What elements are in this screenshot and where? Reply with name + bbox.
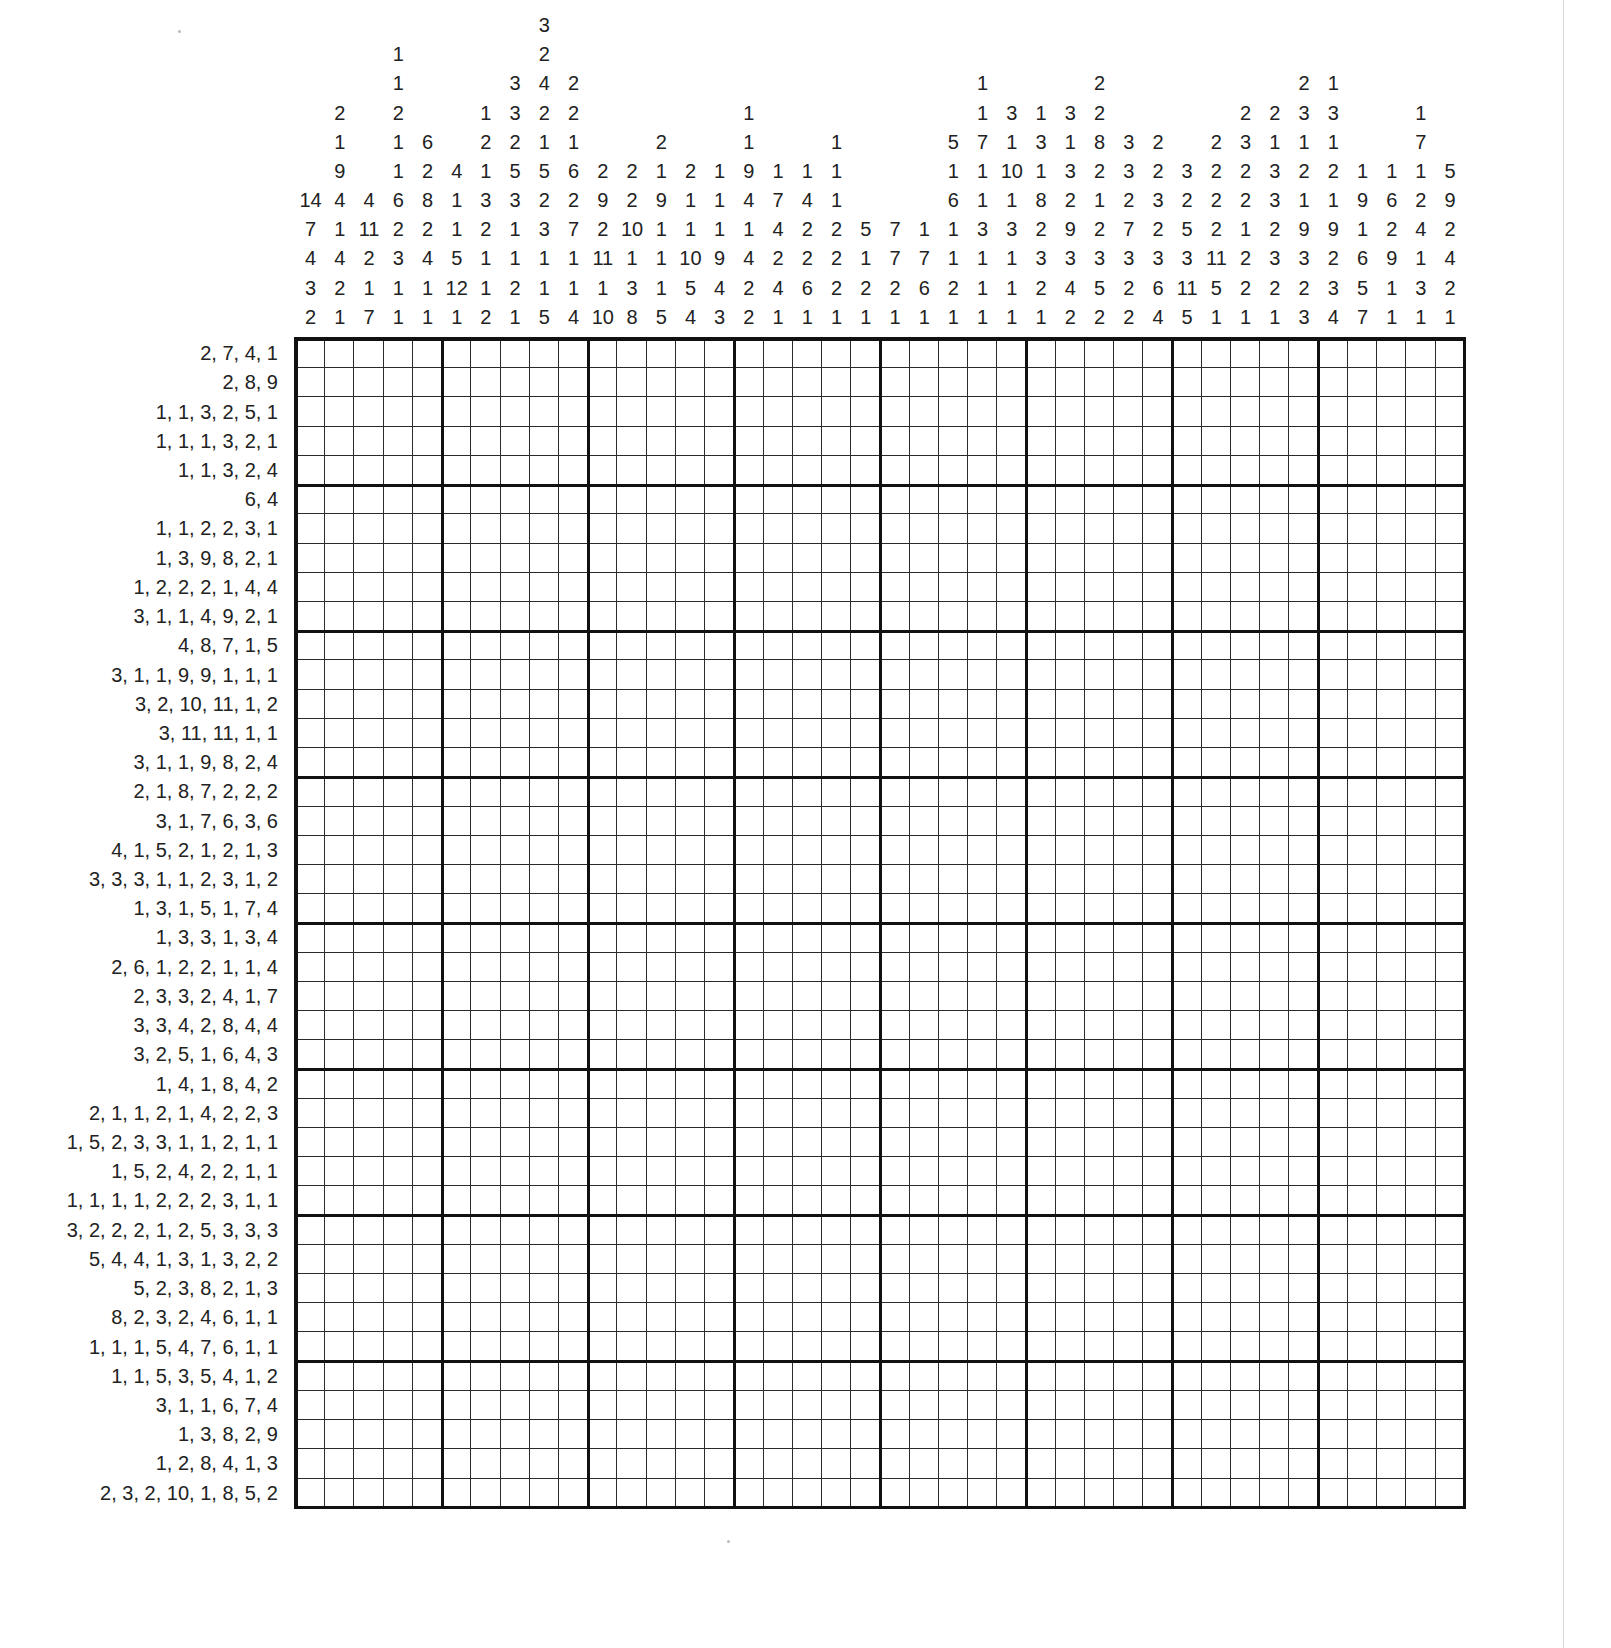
grid-cell[interactable]	[734, 865, 763, 894]
grid-cell[interactable]	[325, 690, 354, 719]
grid-cell[interactable]	[705, 1332, 734, 1361]
grid-cell[interactable]	[647, 719, 676, 748]
grid-cell[interactable]	[1085, 602, 1114, 631]
grid-cell[interactable]	[1026, 1099, 1055, 1128]
grid-cell[interactable]	[968, 836, 997, 865]
grid-cell[interactable]	[1114, 339, 1143, 368]
grid-cell[interactable]	[1056, 1391, 1085, 1420]
grid-cell[interactable]	[617, 427, 646, 456]
grid-cell[interactable]	[1436, 1420, 1465, 1449]
grid-cell[interactable]	[1114, 427, 1143, 456]
grid-cell[interactable]	[413, 894, 442, 923]
grid-cell[interactable]	[1143, 660, 1172, 689]
grid-cell[interactable]	[647, 485, 676, 514]
grid-cell[interactable]	[588, 807, 617, 836]
grid-cell[interactable]	[325, 1040, 354, 1069]
grid-cell[interactable]	[968, 865, 997, 894]
grid-cell[interactable]	[354, 1420, 383, 1449]
grid-cell[interactable]	[501, 1011, 530, 1040]
grid-cell[interactable]	[939, 1011, 968, 1040]
grid-cell[interactable]	[1406, 894, 1435, 923]
grid-cell[interactable]	[705, 690, 734, 719]
grid-cell[interactable]	[384, 923, 413, 952]
grid-cell[interactable]	[1319, 1186, 1348, 1215]
grid-cell[interactable]	[1026, 923, 1055, 952]
grid-cell[interactable]	[1143, 1011, 1172, 1040]
grid-cell[interactable]	[1085, 1069, 1114, 1098]
grid-cell[interactable]	[734, 1128, 763, 1157]
grid-cell[interactable]	[676, 427, 705, 456]
grid-cell[interactable]	[1056, 1479, 1085, 1508]
grid-cell[interactable]	[851, 660, 880, 689]
grid-cell[interactable]	[1202, 368, 1231, 397]
grid-cell[interactable]	[1348, 660, 1377, 689]
grid-cell[interactable]	[588, 339, 617, 368]
grid-cell[interactable]	[559, 456, 588, 485]
grid-cell[interactable]	[1406, 748, 1435, 777]
grid-cell[interactable]	[1143, 368, 1172, 397]
grid-cell[interactable]	[1026, 894, 1055, 923]
grid-cell[interactable]	[296, 1274, 325, 1303]
grid-cell[interactable]	[1026, 777, 1055, 806]
grid-cell[interactable]	[1202, 427, 1231, 456]
grid-cell[interactable]	[1143, 456, 1172, 485]
grid-cell[interactable]	[530, 982, 559, 1011]
grid-cell[interactable]	[764, 485, 793, 514]
grid-cell[interactable]	[1260, 777, 1289, 806]
puzzle-grid[interactable]	[296, 339, 1465, 1508]
grid-cell[interactable]	[530, 1099, 559, 1128]
grid-cell[interactable]	[1319, 807, 1348, 836]
grid-cell[interactable]	[822, 1449, 851, 1478]
grid-cell[interactable]	[997, 807, 1026, 836]
grid-cell[interactable]	[851, 690, 880, 719]
grid-cell[interactable]	[296, 368, 325, 397]
grid-cell[interactable]	[676, 865, 705, 894]
grid-cell[interactable]	[1202, 1479, 1231, 1508]
grid-cell[interactable]	[1143, 836, 1172, 865]
grid-cell[interactable]	[910, 368, 939, 397]
grid-cell[interactable]	[1406, 1069, 1435, 1098]
grid-cell[interactable]	[1026, 1274, 1055, 1303]
grid-cell[interactable]	[705, 1128, 734, 1157]
grid-cell[interactable]	[617, 1479, 646, 1508]
grid-cell[interactable]	[296, 1186, 325, 1215]
grid-cell[interactable]	[501, 748, 530, 777]
grid-cell[interactable]	[559, 660, 588, 689]
grid-cell[interactable]	[501, 631, 530, 660]
grid-cell[interactable]	[384, 1040, 413, 1069]
grid-cell[interactable]	[1260, 544, 1289, 573]
grid-cell[interactable]	[1114, 1157, 1143, 1186]
grid-cell[interactable]	[793, 397, 822, 426]
grid-cell[interactable]	[1026, 1303, 1055, 1332]
grid-cell[interactable]	[501, 456, 530, 485]
grid-cell[interactable]	[617, 485, 646, 514]
grid-cell[interactable]	[471, 1303, 500, 1332]
grid-cell[interactable]	[1231, 777, 1260, 806]
grid-cell[interactable]	[559, 1157, 588, 1186]
grid-cell[interactable]	[1173, 1391, 1202, 1420]
grid-cell[interactable]	[1056, 982, 1085, 1011]
grid-cell[interactable]	[939, 1157, 968, 1186]
grid-cell[interactable]	[384, 339, 413, 368]
grid-cell[interactable]	[1289, 1069, 1318, 1098]
grid-cell[interactable]	[851, 777, 880, 806]
grid-cell[interactable]	[880, 690, 909, 719]
grid-cell[interactable]	[530, 1362, 559, 1391]
grid-cell[interactable]	[1436, 1479, 1465, 1508]
grid-cell[interactable]	[296, 514, 325, 543]
grid-cell[interactable]	[1114, 1391, 1143, 1420]
grid-cell[interactable]	[1377, 836, 1406, 865]
grid-cell[interactable]	[1085, 1040, 1114, 1069]
grid-cell[interactable]	[471, 456, 500, 485]
grid-cell[interactable]	[501, 719, 530, 748]
grid-cell[interactable]	[1143, 923, 1172, 952]
grid-cell[interactable]	[1231, 544, 1260, 573]
grid-cell[interactable]	[1436, 602, 1465, 631]
grid-cell[interactable]	[1173, 602, 1202, 631]
grid-cell[interactable]	[1143, 1099, 1172, 1128]
grid-cell[interactable]	[822, 1216, 851, 1245]
grid-cell[interactable]	[1173, 1420, 1202, 1449]
grid-cell[interactable]	[910, 573, 939, 602]
grid-cell[interactable]	[793, 1332, 822, 1361]
grid-cell[interactable]	[1289, 923, 1318, 952]
